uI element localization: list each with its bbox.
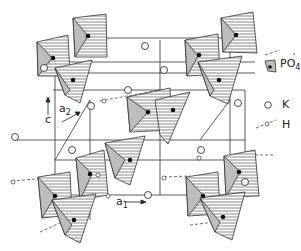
legend-label-h: H	[282, 119, 290, 130]
axis-label-c: c	[45, 114, 51, 125]
legend-label-k: K	[282, 99, 289, 110]
legend-label-po4: PO4	[280, 58, 300, 69]
axis-label-a1: a1	[116, 196, 128, 207]
axis-label-a2: a2	[59, 103, 71, 114]
